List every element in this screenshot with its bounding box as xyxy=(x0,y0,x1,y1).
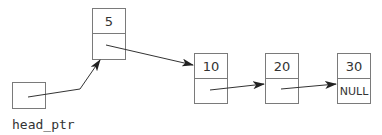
node-value: 5 xyxy=(105,14,113,29)
node-value: 30 xyxy=(346,59,363,74)
node-value: 10 xyxy=(203,59,220,74)
diagram-svg: head_ptr 5 10 20 30 NULL xyxy=(0,0,382,135)
null-pointer-text: NULL xyxy=(340,85,369,98)
node-20: 20 xyxy=(266,54,299,104)
head-pointer-label: head_ptr xyxy=(12,117,75,132)
node-30: 30 NULL xyxy=(338,54,371,104)
node-5: 5 xyxy=(93,9,126,60)
linked-list-diagram: head_ptr 5 10 20 30 NULL xyxy=(0,0,382,135)
node-value: 20 xyxy=(274,59,291,74)
node-10: 10 xyxy=(195,54,228,104)
